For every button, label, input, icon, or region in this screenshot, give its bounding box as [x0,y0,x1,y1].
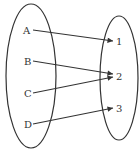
codomain-element-1: 1 [116,36,122,47]
domain-element-c: C [24,88,32,99]
domain-element-b: B [24,56,31,67]
mapping-diagram: A B C D 1 2 3 [0,0,139,151]
arrow-a-to-1 [33,30,113,41]
arrow-d-to-3 [33,108,113,124]
domain-element-d: D [24,119,32,130]
codomain-element-2: 2 [116,71,122,82]
codomain-element-3: 3 [116,103,122,114]
domain-element-a: A [22,25,31,36]
arrow-c-to-2 [33,77,113,93]
